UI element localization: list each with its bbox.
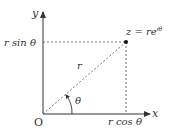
y-axis-label: y	[31, 7, 39, 20]
radius-line	[43, 42, 126, 114]
theta-label: θ	[75, 95, 81, 106]
polar-diagram: y x O r sin θ r cos θ r θ z = reiθ	[0, 0, 171, 138]
point-z	[124, 40, 128, 44]
r-sin-label: r sin θ	[4, 37, 36, 48]
angle-arc	[66, 95, 72, 114]
x-axis-label: x	[152, 107, 159, 120]
point-z-label: z = reiθ	[125, 25, 163, 37]
origin-label: O	[34, 116, 43, 129]
radius-label: r	[77, 60, 83, 71]
r-cos-label: r cos θ	[108, 116, 142, 127]
